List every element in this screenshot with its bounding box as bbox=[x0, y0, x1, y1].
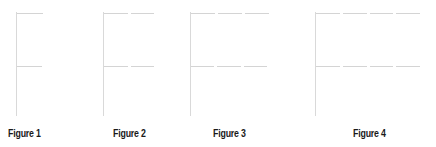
figure-4: Figure 4 bbox=[0, 0, 436, 147]
middle-stroke bbox=[316, 66, 420, 67]
figure-4-label: Figure 4 bbox=[353, 128, 386, 139]
top-stroke bbox=[316, 13, 420, 14]
vertical-stroke bbox=[315, 12, 316, 116]
